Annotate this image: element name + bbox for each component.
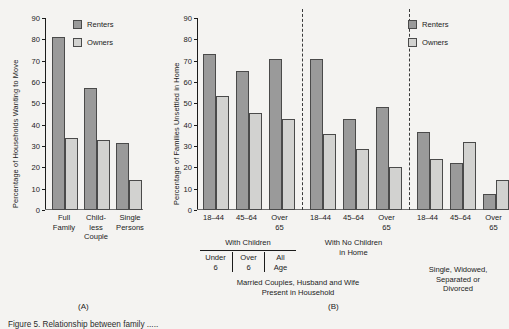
category-label-single-persons: Single Persons [112,213,148,232]
category-label-full-family: Full Family [48,213,80,232]
legend-item-owners: Owners [408,38,449,47]
panel-a-tick-label: 70 [32,56,45,65]
legend-item-renters: Renters [408,20,449,29]
panel-b-y-axis-label: Percentage of Families Unsettled in Home [172,63,181,205]
bar-renters [84,88,97,210]
bar-renters [343,119,356,210]
bar-renters [483,194,496,210]
bar-owners [323,134,336,210]
bar-renters [450,163,463,210]
legend-swatch-owners-icon [73,38,82,47]
panel-b-tick-label: 50 [184,99,197,108]
bar-renters [269,59,282,211]
panel-a-tick-label: 50 [32,99,45,108]
bar-renters [203,54,216,210]
bar-owners [129,180,142,210]
bar-owners [356,149,369,210]
group-divider-1 [302,9,303,210]
category-label-childless-couple: Child- less Couple [80,213,112,242]
panel-b-tick-label: 20 [184,163,197,172]
bar-owners [65,138,78,211]
legend-item-renters: Renters [73,20,114,29]
bar-renters [236,71,249,210]
panel-a: Percentage of Households Wanting to Move… [0,0,165,328]
bar-renters [417,132,430,210]
age-label-18-44: 18–44 [307,213,334,223]
age-label-18-44: 18–44 [414,213,441,223]
age-label-45-64: 45–64 [233,213,260,223]
bar-owners [97,140,110,210]
panel-b-plot-area: 0 10 20 30 40 50 60 70 80 90 [197,18,497,210]
panel-a-tick-label: 20 [32,163,45,172]
age-label-45-64: 45–64 [340,213,367,223]
panel-a-tag: (A) [78,302,89,311]
panel-a-tick-label: 0 [36,206,45,215]
bar-owners [463,142,476,210]
with-children-rule [200,250,296,251]
legend-label-renters: Renters [422,20,449,29]
legend-swatch-renters-icon [408,20,417,29]
bar-renters [376,107,389,211]
child-age-over-6: Over 6 [233,253,264,272]
legend-item-owners: Owners [73,38,114,47]
child-age-separator [264,252,265,272]
no-children-label: With No Children in Home [305,238,402,257]
bar-owners [430,159,443,210]
panel-a-y-axis [45,18,46,210]
panel-a-tick-label: 30 [32,142,45,151]
panel-b-tick-label: 30 [184,142,197,151]
panel-a-tick-label: 60 [32,78,45,87]
figure-caption: Figure 5. Relationship between family ..… [8,320,488,329]
age-label-over-65: Over 65 [266,213,293,232]
with-children-label: With Children [200,238,296,248]
panel-b-y-axis [197,18,198,210]
panel-b-tick-label: 70 [184,56,197,65]
panel-b: Percentage of Families Unsettled in Home… [165,0,501,328]
panel-a-y-axis-label: Percentage of Households Wanting to Move [11,60,20,208]
age-label-over-65: Over 65 [480,213,507,232]
bar-renters [52,37,65,210]
panel-b-tick-label: 10 [184,184,197,193]
legend-label-owners: Owners [422,38,448,47]
panel-b-legend: Renters Owners [408,20,449,56]
panel-a-legend: Renters Owners [73,20,114,56]
child-age-separator [232,252,233,272]
panel-b-tick-label: 0 [188,206,197,215]
bar-owners [389,167,402,210]
bar-owners [282,119,295,210]
legend-swatch-renters-icon [73,20,82,29]
panel-b-tick-label: 80 [184,35,197,44]
panel-b-tag: (B) [328,302,339,311]
panel-a-tick-label: 90 [32,14,45,23]
panel-a-tick-label: 80 [32,35,45,44]
age-label-45-64: 45–64 [447,213,474,223]
age-label-over-65: Over 65 [373,213,400,232]
legend-swatch-owners-icon [408,38,417,47]
bar-owners [496,180,509,210]
married-couples-label: Married Couples, Husband and Wife Presen… [193,278,403,297]
panel-a-tick-label: 40 [32,120,45,129]
panel-a-tick-label: 10 [32,184,45,193]
bar-renters [310,59,323,211]
panel-b-tick-label: 90 [184,14,197,23]
legend-label-owners: Owners [87,38,113,47]
panel-b-tick-label: 60 [184,78,197,87]
bar-owners [249,113,262,210]
bar-owners [216,96,229,210]
child-age-under-6: Under 6 [200,253,231,272]
legend-label-renters: Renters [87,20,114,29]
bar-renters [116,143,129,210]
child-age-all-age: All Age [265,253,296,272]
single-widowed-label: Single, Widowed, Separated or Divorced [409,265,507,294]
panel-b-tick-label: 40 [184,120,197,129]
age-label-18-44: 18–44 [200,213,227,223]
